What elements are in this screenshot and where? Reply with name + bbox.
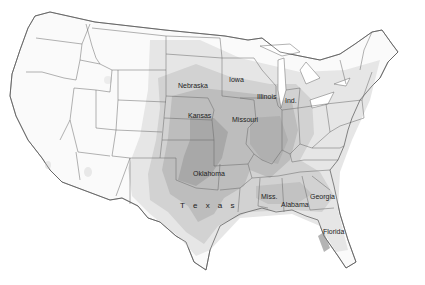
label-mississippi: Miss.	[261, 193, 277, 200]
us-map	[0, 0, 425, 285]
label-iowa: Iowa	[229, 76, 244, 83]
label-florida: Florida	[323, 228, 344, 235]
label-texas: T e x a s	[180, 202, 238, 210]
label-nebraska: Nebraska	[178, 82, 208, 89]
label-missouri: Missouri	[232, 116, 258, 123]
label-oklahoma: Oklahoma	[193, 170, 225, 177]
label-kansas: Kansas	[188, 112, 211, 119]
label-indiana: Ind.	[285, 97, 297, 104]
label-georgia: Georgia	[310, 193, 335, 200]
label-alabama: Alabama	[281, 201, 309, 208]
label-illinois: Illinois	[257, 93, 276, 100]
